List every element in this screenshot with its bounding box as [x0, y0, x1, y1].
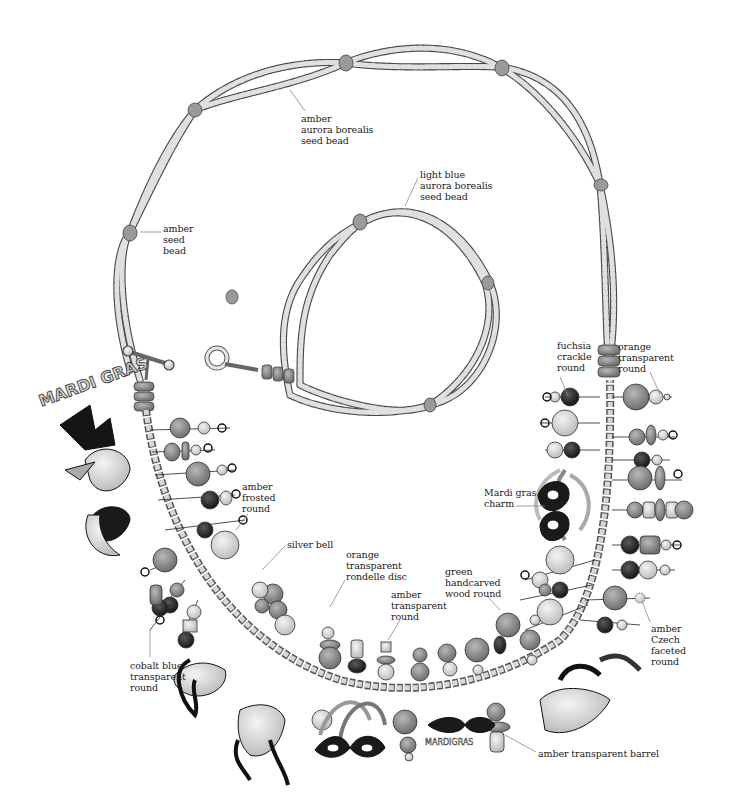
label-amber-transparent-round: amber transparent round: [391, 589, 447, 622]
leader-line-amber-czech-faceted-round: [642, 601, 650, 622]
jester-charm: [540, 656, 640, 733]
label-amber-frosted-round: amber frosted round: [242, 481, 275, 514]
label-light-blue-aurora-borealis-seed-bead: light blue aurora borealis seed bead: [420, 169, 492, 202]
label-mardi-gras-charm: Mardi gras charm: [484, 487, 536, 509]
svg-text:MARDIGRAS: MARDIGRAS: [425, 738, 473, 747]
leader-line-orange-transparent-rondelle-disc: [330, 580, 345, 607]
leader-line-amber-transparent-barrel: [505, 735, 536, 752]
mardi-gras-mask-charm-right: [536, 470, 589, 541]
label-amber-aurora-borealis-seed-bead: amber aurora borealis seed bead: [301, 113, 373, 146]
leader-line-amber-aurora-borealis-seed-bead: [290, 90, 305, 111]
label-silver-bell: silver bell: [287, 539, 333, 550]
accent-beads: [123, 55, 608, 412]
mardi-gras-word-charm: MARDIGRAS: [425, 718, 495, 748]
leader-line-amber-transparent-round: [388, 620, 400, 640]
label-amber-seed-bead: amber seed bead: [163, 223, 193, 256]
label-green-handcarved-wood-round: green handcarved wood round: [445, 566, 501, 599]
label-orange-transparent-rondelle-disc: orange transparent rondelle disc: [346, 549, 407, 582]
label-amber-transparent-barrel: amber transparent barrel: [538, 748, 659, 759]
label-fuchsia-crackle-round: fuchsia crackle round: [557, 340, 592, 373]
leader-line-silver-bell: [262, 545, 286, 570]
svg-text:MARDI GRAS: MARDI GRAS: [36, 353, 150, 410]
label-amber-czech-faceted-round: amber Czech faceted round: [651, 623, 686, 667]
label-cobalt-blue-transparent-round: cobalt blue transparent round: [130, 660, 186, 693]
leader-lines: [140, 90, 660, 752]
leader-line-light-blue-aurora-borealis-seed-bead: [405, 178, 418, 206]
label-orange-transparent-round: orange transparent round: [618, 341, 674, 374]
link-chain: [146, 380, 610, 688]
